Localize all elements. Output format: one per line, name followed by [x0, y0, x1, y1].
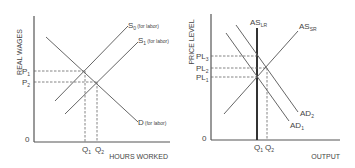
q2-label: Q2	[95, 145, 104, 155]
q2-label: Q2	[265, 143, 274, 153]
aslr-label: ASLR	[250, 18, 267, 28]
origin-label: 0	[25, 135, 30, 144]
economics-diagrams: REAL WAGES HOURS WORKED 0 S0(for labor) …	[0, 0, 355, 168]
assr-label: ASSR	[299, 22, 317, 32]
labor-market-diagram: REAL WAGES HOURS WORKED 0 S0(for labor) …	[16, 16, 170, 160]
ad1-label: AD1	[290, 121, 304, 131]
s1-label: S1(for labor)	[138, 36, 169, 46]
pl1-label: PL1	[196, 73, 209, 83]
p2-label: P2	[22, 78, 30, 88]
x-axis-label: HOURS WORKED	[109, 153, 168, 160]
q1-label: Q1	[82, 145, 91, 155]
ad2-label: AD2	[300, 109, 314, 119]
y-axis-label: PRICE LEVEL	[188, 19, 195, 64]
origin-label: 0	[202, 134, 207, 143]
supply-curve-s0	[55, 26, 128, 101]
assr-curve	[224, 31, 298, 114]
demand-curve	[46, 37, 138, 122]
pl3-label: PL3	[196, 52, 209, 62]
ad-as-diagram: PRICE LEVEL OUTPUT 0 ASLR ASSR AD2 AD1 P…	[188, 14, 341, 160]
d-label: D(for labor)	[138, 118, 167, 127]
x-axis-label: OUTPUT	[311, 153, 341, 160]
s0-label: S0(for labor)	[128, 21, 159, 31]
q1-label: Q1	[254, 143, 263, 153]
p1-label: P1	[22, 67, 30, 77]
